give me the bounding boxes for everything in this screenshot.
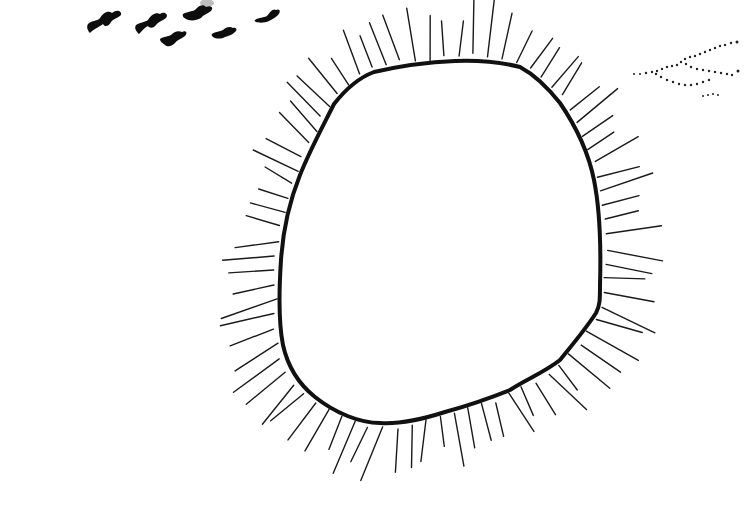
ray-stroke bbox=[331, 58, 348, 85]
ray-stroke bbox=[246, 372, 285, 404]
ray-stroke bbox=[265, 167, 292, 183]
ray-stroke bbox=[577, 89, 618, 123]
ray-stroke bbox=[604, 278, 645, 279]
ray-stroke bbox=[234, 359, 280, 392]
ray-stroke bbox=[582, 116, 612, 137]
ray-stroke bbox=[288, 403, 316, 440]
ray-stroke bbox=[481, 403, 491, 440]
ray-stroke bbox=[596, 320, 642, 333]
bird-icon bbox=[160, 31, 186, 46]
ray-stroke bbox=[412, 425, 413, 467]
ray-stroke bbox=[250, 203, 285, 213]
ray-stroke bbox=[246, 216, 279, 226]
ray-stroke bbox=[502, 13, 512, 59]
ray-stroke bbox=[509, 393, 534, 432]
ray-stroke bbox=[223, 256, 275, 260]
ray-stroke bbox=[253, 150, 298, 171]
bird-icon bbox=[212, 27, 237, 39]
bird-icon bbox=[87, 11, 121, 33]
bird-icon bbox=[183, 5, 212, 20]
ray-stroke bbox=[235, 343, 278, 371]
sketch-canvas bbox=[0, 0, 744, 506]
ray-stroke bbox=[454, 413, 464, 466]
ray-stroke bbox=[360, 36, 372, 67]
ray-stroke bbox=[421, 420, 426, 462]
ray-stroke bbox=[549, 375, 586, 410]
ray-stroke bbox=[305, 409, 329, 451]
ray-stroke bbox=[606, 226, 661, 234]
ray-stroke bbox=[552, 57, 578, 88]
ray-stroke bbox=[604, 293, 654, 302]
bird-flock bbox=[87, 0, 280, 46]
circle-outline bbox=[279, 61, 600, 423]
ray-stroke bbox=[235, 242, 279, 248]
ray-stroke bbox=[601, 173, 653, 191]
ray-stroke bbox=[605, 211, 638, 219]
ray-stroke bbox=[602, 196, 639, 206]
ray-stroke bbox=[586, 331, 638, 360]
ray-stroke bbox=[468, 408, 475, 448]
ray-stroke bbox=[473, 0, 474, 53]
ray-stroke bbox=[581, 345, 620, 372]
ray-stroke bbox=[606, 264, 652, 273]
ray-stroke bbox=[496, 403, 504, 436]
ray-stroke bbox=[541, 48, 559, 77]
ray-stroke bbox=[588, 132, 614, 150]
ray-stroke bbox=[440, 417, 444, 447]
ray-stroke bbox=[383, 15, 400, 60]
ray-stroke bbox=[297, 76, 330, 107]
ray-stroke bbox=[229, 270, 274, 273]
ray-stroke bbox=[259, 189, 288, 198]
ray-stroke bbox=[608, 250, 663, 261]
ray-stroke bbox=[521, 387, 533, 416]
ray-stroke bbox=[562, 63, 581, 95]
ray-stroke bbox=[517, 31, 532, 63]
ray-stroke bbox=[442, 21, 444, 56]
ray-stroke bbox=[266, 139, 301, 157]
ray-stroke bbox=[309, 58, 338, 93]
ray-stroke bbox=[570, 87, 599, 110]
ray-stroke bbox=[221, 299, 277, 319]
ray-stroke bbox=[329, 416, 342, 449]
ray-stroke bbox=[536, 383, 555, 414]
ray-stroke bbox=[488, 0, 495, 57]
ray-stroke bbox=[230, 329, 273, 346]
bird-icon bbox=[255, 9, 280, 22]
ray-stroke bbox=[395, 429, 398, 472]
radiating-strokes bbox=[220, 0, 662, 480]
ray-stroke bbox=[568, 354, 609, 388]
ray-stroke bbox=[287, 82, 320, 116]
ray-stroke bbox=[262, 385, 293, 424]
ray-stroke bbox=[351, 428, 368, 462]
ray-stroke bbox=[343, 30, 359, 74]
ray-stroke bbox=[459, 21, 463, 56]
ray-stroke bbox=[233, 285, 274, 294]
ray-stroke bbox=[407, 8, 416, 61]
ray-stroke bbox=[598, 167, 640, 178]
ray-stroke bbox=[291, 101, 317, 132]
dotted-trail bbox=[633, 41, 740, 98]
bird-icon bbox=[135, 13, 167, 34]
ray-stroke bbox=[370, 23, 387, 65]
